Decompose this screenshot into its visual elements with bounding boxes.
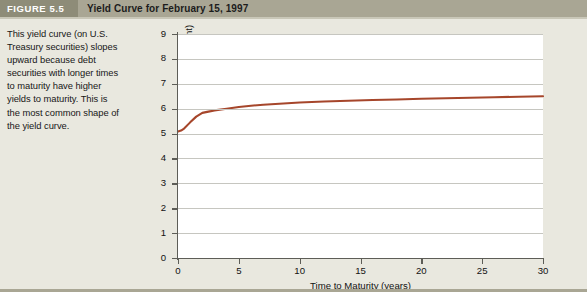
x-tick-label-25: 25 bbox=[467, 265, 497, 276]
gridline-y-9 bbox=[178, 34, 543, 35]
x-tick-10 bbox=[300, 258, 301, 264]
y-tick-4 bbox=[172, 158, 178, 159]
figure-header-bar: FIGURE 5.5 Yield Curve for February 15, … bbox=[0, 0, 587, 17]
x-tick-20 bbox=[421, 258, 422, 264]
x-tick-label-5: 5 bbox=[224, 265, 254, 276]
y-tick-6 bbox=[172, 109, 178, 110]
x-tick-label-20: 20 bbox=[406, 265, 436, 276]
header-divider-rule bbox=[0, 17, 587, 19]
y-tick-2 bbox=[172, 208, 178, 209]
y-tick-5 bbox=[172, 134, 178, 135]
x-tick-0 bbox=[178, 258, 179, 264]
y-tick-label-7: 7 bbox=[130, 77, 166, 88]
plot-surface bbox=[178, 34, 543, 258]
gridline-y-4 bbox=[178, 158, 543, 159]
x-tick-30 bbox=[543, 258, 544, 264]
gridline-y-6 bbox=[178, 109, 543, 110]
y-tick-9 bbox=[172, 34, 178, 35]
gridline-y-3 bbox=[178, 183, 543, 184]
y-tick-7 bbox=[172, 84, 178, 85]
y-tick-label-2: 2 bbox=[130, 202, 166, 213]
x-tick-label-0: 0 bbox=[163, 265, 193, 276]
y-axis-line bbox=[177, 32, 178, 260]
x-tick-25 bbox=[482, 258, 483, 264]
y-tick-label-4: 4 bbox=[130, 152, 166, 163]
x-tick-label-30: 30 bbox=[528, 265, 558, 276]
gridline-y-1 bbox=[178, 233, 543, 234]
figure-number-tag: FIGURE 5.5 bbox=[0, 0, 78, 17]
y-tick-label-5: 5 bbox=[130, 127, 166, 138]
x-tick-15 bbox=[361, 258, 362, 264]
chart-area: Yield to Maturity (percent) Time to Matu… bbox=[128, 22, 580, 288]
y-tick-label-0: 0 bbox=[130, 252, 166, 263]
y-tick-1 bbox=[172, 233, 178, 234]
y-tick-3 bbox=[172, 183, 178, 184]
gridline-y-2 bbox=[178, 208, 543, 209]
figure-title: Yield Curve for February 15, 1997 bbox=[78, 3, 248, 14]
x-tick-5 bbox=[239, 258, 240, 264]
yield-curve-line bbox=[178, 34, 543, 258]
figure-caption: This yield curve (on U.S. Treasury secur… bbox=[7, 27, 119, 132]
gridline-y-8 bbox=[178, 59, 543, 60]
y-tick-8 bbox=[172, 59, 178, 60]
y-tick-label-6: 6 bbox=[130, 102, 166, 113]
gridline-y-7 bbox=[178, 84, 543, 85]
y-tick-label-1: 1 bbox=[130, 227, 166, 238]
y-tick-label-8: 8 bbox=[130, 52, 166, 63]
gridline-y-5 bbox=[178, 134, 543, 135]
x-tick-label-10: 10 bbox=[285, 265, 315, 276]
x-tick-label-15: 15 bbox=[346, 265, 376, 276]
y-tick-label-9: 9 bbox=[130, 28, 166, 39]
y-tick-label-3: 3 bbox=[130, 177, 166, 188]
figure-container: FIGURE 5.5 Yield Curve for February 15, … bbox=[0, 0, 587, 292]
